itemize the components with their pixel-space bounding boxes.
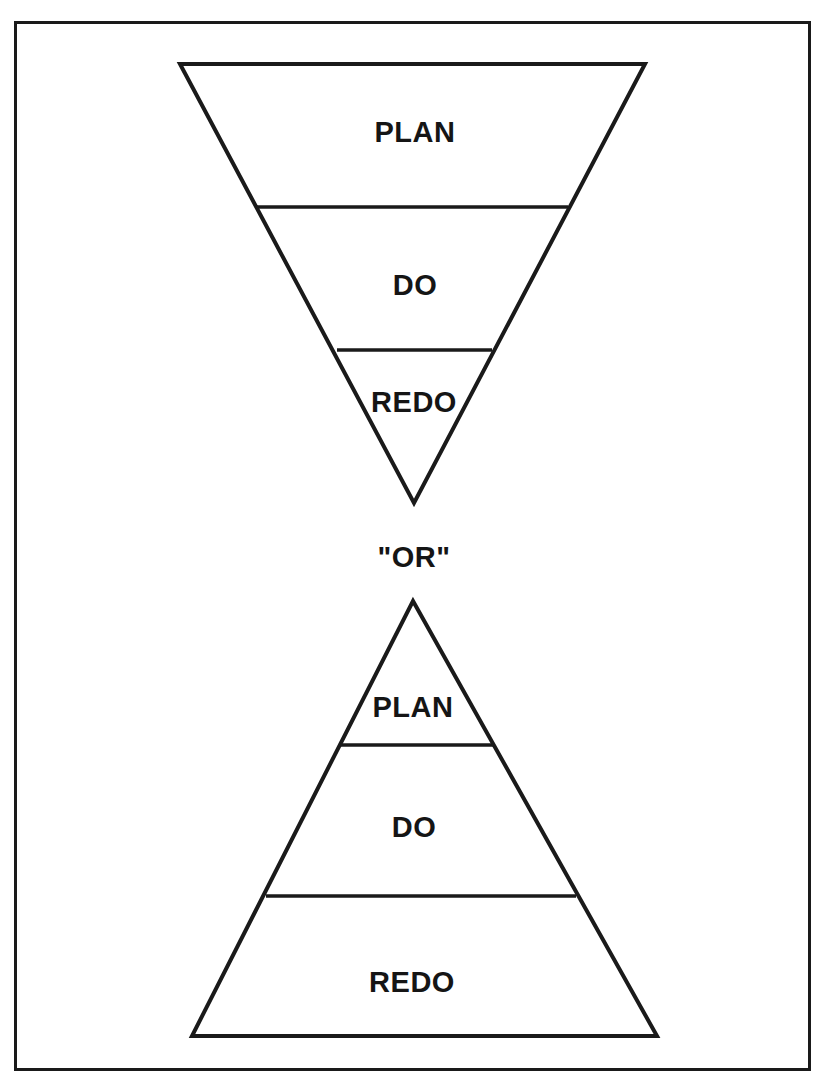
top-label-do: DO xyxy=(393,271,438,300)
bottom-label-plan: PLAN xyxy=(373,693,454,722)
top-label-redo: REDO xyxy=(371,388,457,417)
or-separator: "OR" xyxy=(378,543,451,572)
top-label-plan: PLAN xyxy=(375,118,456,147)
bottom-label-redo: REDO xyxy=(369,968,455,997)
bottom-label-do: DO xyxy=(392,813,437,842)
